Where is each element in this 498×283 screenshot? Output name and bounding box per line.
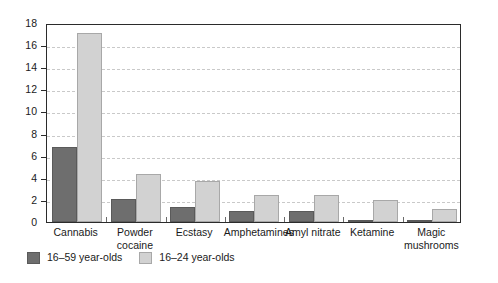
y-axis-tick-label: 6	[31, 150, 37, 163]
x-axis-tick-label: Amyl nitrate	[283, 226, 342, 239]
legend-item: 16–59 year-olds	[27, 251, 122, 264]
bar	[314, 195, 339, 222]
bar-group	[225, 25, 284, 222]
bar-group	[403, 25, 462, 222]
bar	[432, 209, 457, 222]
bar	[254, 195, 279, 222]
y-axis-tick-label: 12	[25, 83, 37, 96]
x-axis-tick-label: Cannabis	[46, 226, 105, 239]
bar	[136, 174, 161, 222]
x-axis-tick-label: Magic mushrooms	[402, 226, 461, 251]
y-axis: 181614121086420	[0, 24, 46, 223]
bar	[289, 211, 314, 222]
y-axis-tick-label: 10	[25, 105, 37, 118]
bar-group	[106, 25, 165, 222]
x-axis-tick-label: Ecstasy	[165, 226, 224, 239]
legend-item: 16–24 year-olds	[139, 251, 234, 264]
bar	[373, 200, 398, 222]
bars-layer	[47, 25, 460, 222]
bar	[348, 220, 373, 222]
y-axis-tick-label: 18	[25, 17, 37, 30]
x-axis-tick-label: Ketamine	[342, 226, 401, 239]
x-axis-tick-label: Powder cocaine	[105, 226, 164, 251]
x-axis-tick-mark	[166, 217, 167, 222]
y-axis-tick-label: 14	[25, 61, 37, 74]
x-axis-tick-mark	[403, 217, 404, 222]
bar-group	[47, 25, 106, 222]
y-axis-tick-label: 4	[31, 172, 37, 185]
x-axis-tick-mark	[343, 217, 344, 222]
y-axis-tick-label: 8	[31, 128, 37, 141]
plot-area	[46, 24, 461, 223]
bar	[77, 33, 102, 222]
bar	[407, 220, 432, 222]
y-axis-tick-label: 2	[31, 194, 37, 207]
bar-group	[166, 25, 225, 222]
bar	[229, 211, 254, 222]
bar	[170, 207, 195, 222]
bar	[52, 147, 77, 222]
x-axis-tick-label: Amphetamines	[224, 226, 283, 239]
legend-swatch	[27, 252, 40, 264]
bar-group	[343, 25, 402, 222]
x-axis-tick-mark	[225, 217, 226, 222]
bar-group	[284, 25, 343, 222]
chart-legend: 16–59 year-olds16–24 year-olds	[27, 251, 235, 264]
legend-swatch	[139, 252, 152, 264]
bar	[111, 199, 136, 222]
x-axis-tick-mark	[284, 217, 285, 222]
y-axis-tick-label: 0	[31, 216, 37, 229]
legend-label: 16–24 year-olds	[159, 251, 234, 264]
y-axis-tick-label: 16	[25, 39, 37, 52]
bar-chart: 181614121086420 CannabisPowder cocaineEc…	[0, 0, 498, 283]
bar	[195, 181, 220, 222]
legend-label: 16–59 year-olds	[47, 251, 122, 264]
x-axis-tick-mark	[106, 217, 107, 222]
